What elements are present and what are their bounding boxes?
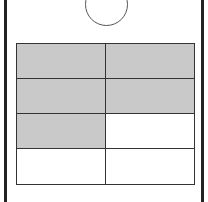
tag-hole-circle [85, 0, 128, 26]
grid-cell-empty [106, 149, 195, 184]
grid-cell-shaded [17, 114, 106, 149]
fraction-grid [16, 43, 195, 185]
grid-cell-shaded [17, 44, 106, 79]
grid-cell-shaded [106, 44, 195, 79]
tag-right-edge [201, 0, 204, 202]
grid-cell-empty [17, 149, 106, 184]
grid-cell-shaded [17, 79, 106, 114]
grid-cell-shaded [106, 79, 195, 114]
grid-cell-empty [106, 114, 195, 149]
tag-left-edge [4, 0, 7, 202]
